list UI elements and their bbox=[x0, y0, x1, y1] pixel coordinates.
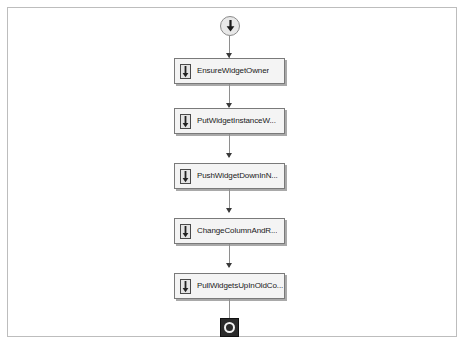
action-node-2[interactable]: PutWidgetInstanceW... bbox=[174, 108, 285, 134]
activity-arrow-icon bbox=[180, 64, 191, 79]
arrowhead-to-action-3 bbox=[226, 153, 232, 158]
initial-node[interactable] bbox=[220, 16, 240, 36]
arrowhead-to-action-5 bbox=[226, 263, 232, 268]
stop-ring-icon bbox=[224, 322, 235, 333]
activity-arrow-icon bbox=[180, 224, 191, 239]
activity-arrow-icon bbox=[180, 279, 191, 294]
connector-action-5-to-end bbox=[229, 299, 230, 318]
diagram-frame: EnsureWidgetOwner PutWidgetInstanceW... … bbox=[7, 7, 457, 337]
action-node-3[interactable]: PushWidgetDownInN... bbox=[174, 163, 285, 189]
down-arrow-in-circle-icon bbox=[226, 20, 235, 32]
activity-arrow-icon bbox=[180, 114, 191, 129]
final-node[interactable] bbox=[220, 318, 239, 337]
action-node-3-label: PushWidgetDownInN... bbox=[197, 172, 278, 180]
action-node-5-label: PullWidgetsUpInOldCo... bbox=[197, 282, 283, 290]
diagram-canvas[interactable]: EnsureWidgetOwner PutWidgetInstanceW... … bbox=[8, 8, 456, 336]
action-node-1-label: EnsureWidgetOwner bbox=[197, 67, 269, 75]
action-node-2-label: PutWidgetInstanceW... bbox=[197, 117, 276, 125]
action-node-1[interactable]: EnsureWidgetOwner bbox=[174, 58, 285, 84]
action-node-4-label: ChangeColumnAndR... bbox=[197, 227, 277, 235]
arrowhead-to-action-4 bbox=[226, 208, 232, 213]
action-node-4[interactable]: ChangeColumnAndR... bbox=[174, 218, 285, 244]
activity-arrow-icon bbox=[180, 169, 191, 184]
action-node-5[interactable]: PullWidgetsUpInOldCo... bbox=[174, 273, 285, 299]
